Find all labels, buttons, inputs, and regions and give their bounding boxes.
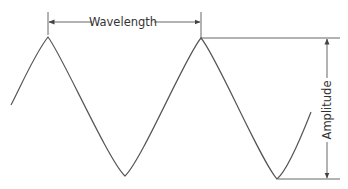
wavelength-label: Wavelength xyxy=(89,15,157,29)
wave-diagram: Wavelength Amplitude xyxy=(0,0,348,189)
wave-diagram-svg: Wavelength Amplitude xyxy=(0,0,348,189)
amplitude-label: Amplitude xyxy=(320,81,334,140)
wave-curve xyxy=(11,37,311,179)
